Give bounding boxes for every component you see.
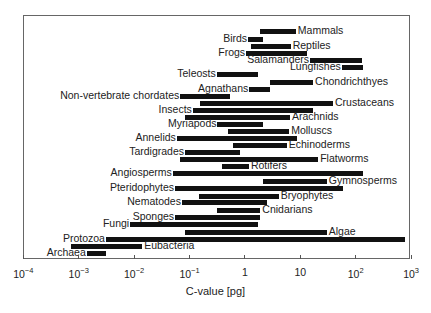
series-label: Angiosperms xyxy=(111,167,172,178)
x-tick-label: 10−3 xyxy=(69,266,89,280)
range-bar-echinoderms xyxy=(233,143,287,148)
series-label: Arachnids xyxy=(292,111,339,122)
x-tick xyxy=(134,255,135,259)
series-label: Fungi xyxy=(103,218,129,229)
range-bar-archaea xyxy=(87,251,106,256)
range-bar-molluscs xyxy=(228,129,289,134)
x-tick xyxy=(189,255,190,259)
series-label: Myriapods xyxy=(168,118,216,129)
x-tick xyxy=(78,255,79,259)
series-label: Birds xyxy=(223,33,247,44)
x-tick-label: 1 xyxy=(242,266,248,278)
series-label: Non-vertebrate chordates xyxy=(60,90,179,101)
range-bar-nematodes xyxy=(182,200,267,205)
range-bar-cnidarians xyxy=(217,208,261,213)
series-label: Reptiles xyxy=(293,40,331,51)
genome-size-range-chart: MammalsBirdsReptilesFrogsSalamandersLung… xyxy=(0,0,431,313)
series-label: Cnidarians xyxy=(262,204,312,215)
series-label: Sponges xyxy=(133,211,174,222)
range-bar-birds xyxy=(248,37,263,42)
series-label: Crustaceans xyxy=(335,97,394,108)
range-bar-flatworms xyxy=(180,157,318,162)
range-bar-chondrichthyes xyxy=(270,80,313,85)
x-tick xyxy=(23,255,24,259)
series-label: Nematodes xyxy=(127,196,181,207)
range-bar-agnathans xyxy=(249,87,269,92)
series-label: Gymnosperms xyxy=(329,175,397,186)
range-bar-teleosts xyxy=(217,72,258,77)
range-bar-sponges xyxy=(175,215,260,220)
range-bar-mammals xyxy=(260,29,295,34)
series-label: Lungfishes xyxy=(290,61,341,72)
series-label: Mammals xyxy=(298,25,344,36)
series-label: Tardigrades xyxy=(129,146,184,157)
range-bar-non-vertebrate-chordates xyxy=(180,94,230,99)
series-label: Agnathans xyxy=(198,83,248,94)
series-label: Annelids xyxy=(136,132,176,143)
series-label: Archaea xyxy=(47,247,86,258)
series-label: Algae xyxy=(329,226,356,237)
series-label: Pteridophytes xyxy=(110,182,174,193)
series-label: Chondrichthyes xyxy=(315,76,388,87)
x-tick-label: 10−1 xyxy=(179,266,199,280)
x-tick-label: 10 xyxy=(294,266,306,278)
range-bar-annelids xyxy=(177,136,297,141)
range-bar-reptiles xyxy=(251,44,290,49)
series-label: Echinoderms xyxy=(289,139,350,150)
range-bar-rotifers xyxy=(222,164,249,169)
series-label: Teleosts xyxy=(177,68,216,79)
series-label: Rotifers xyxy=(251,160,287,171)
range-bar-crustaceans xyxy=(200,101,333,106)
series-label: Molluscs xyxy=(291,125,332,136)
series-label: Bryophytes xyxy=(281,190,334,201)
series-label: Protozoa xyxy=(63,233,105,244)
x-tick xyxy=(300,255,301,259)
x-tick-label: 10−2 xyxy=(124,266,144,280)
range-bar-tardigrades xyxy=(185,150,240,155)
x-axis-label: C-value [pg] xyxy=(0,285,431,297)
x-tick xyxy=(355,255,356,259)
x-tick xyxy=(411,255,412,259)
x-tick-label: 103 xyxy=(403,266,419,280)
series-label: Flatworms xyxy=(320,153,368,164)
range-bar-fungi xyxy=(130,222,257,227)
range-bar-gymnosperms xyxy=(263,179,327,184)
series-label: Frogs xyxy=(218,47,245,58)
range-bar-myriapods xyxy=(217,122,262,127)
series-label: Insects xyxy=(159,104,192,115)
series-label: Eubacteria xyxy=(144,240,194,251)
x-tick-label: 10−4 xyxy=(13,266,33,280)
x-tick-label: 102 xyxy=(348,266,364,280)
range-bar-lungfishes xyxy=(342,65,363,70)
range-bar-bryophytes xyxy=(199,194,279,199)
range-bar-algae xyxy=(185,230,327,235)
x-tick xyxy=(244,255,245,259)
